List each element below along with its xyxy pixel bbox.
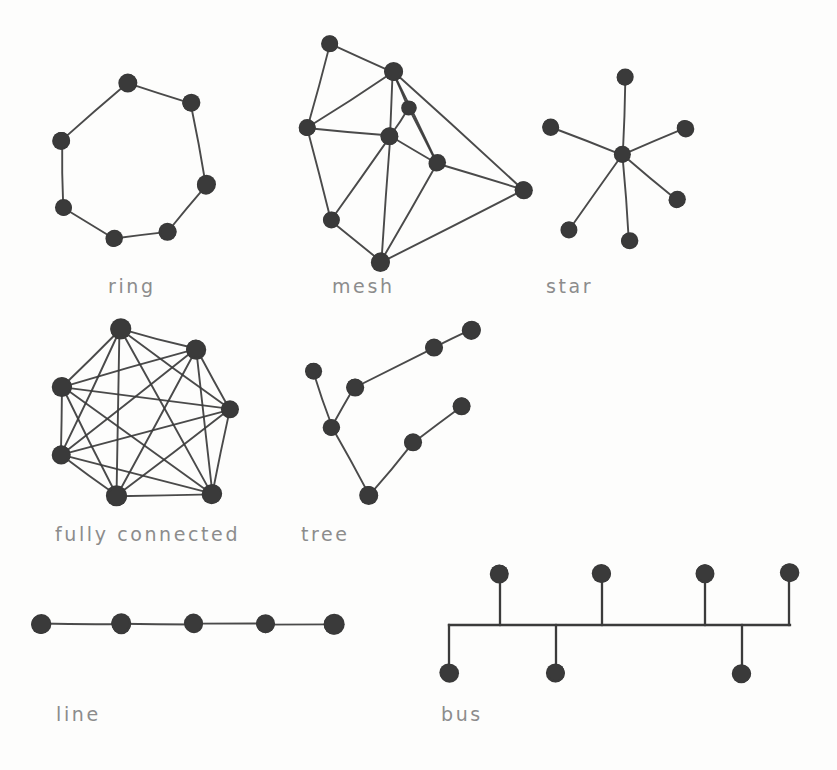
mesh-edge-4 [390,73,393,136]
bus-node-up-2[interactable] [695,564,714,583]
mesh-node-1[interactable] [384,62,403,81]
mesh-node-0[interactable] [321,35,338,52]
mesh-node-3[interactable] [299,119,316,136]
node-blob [348,379,364,395]
bus-node-down-0[interactable] [439,664,459,683]
star-node-0[interactable] [614,146,631,163]
node-blob [111,320,130,339]
tree-node-2[interactable] [346,379,364,397]
fully-connected-node-3[interactable] [202,484,223,504]
node-blob [492,565,509,582]
bus-node-down-2[interactable] [732,664,751,683]
bus-node-up-3[interactable] [780,563,799,582]
star-edge-3 [624,155,677,199]
ring-node-0[interactable] [118,74,137,93]
topology-svg [0,0,837,770]
node-blob [781,565,798,582]
mesh-node-2[interactable] [401,100,417,115]
node-blob [669,193,684,208]
ring-node-5[interactable] [55,199,72,216]
topology-diagram-canvas: ringmeshstarfully connectedtreelinebus [0,0,837,770]
node-blob [187,340,205,358]
edges-tree [313,330,471,496]
mesh-edge-10 [307,128,331,219]
nodes-ring [52,74,216,247]
ring-edge-5 [62,140,63,208]
node-blob [119,75,136,92]
node-blob [373,254,390,271]
tree-node-7[interactable] [453,397,471,415]
tree-node-4[interactable] [462,321,481,340]
star-node-6[interactable] [560,221,577,238]
fully-connected-edge-7 [196,349,212,495]
line-node-3[interactable] [256,614,275,633]
star-node-5[interactable] [621,232,638,249]
line-node-4[interactable] [324,614,345,635]
fully-connected-node-5[interactable] [52,445,71,464]
node-blob [463,322,480,339]
bus-node-up-1[interactable] [592,564,611,583]
line-node-0[interactable] [31,614,51,634]
bus-node-down-1[interactable] [546,664,565,683]
tree-node-3[interactable] [425,339,443,357]
mesh-edge-0 [330,44,393,73]
mesh-node-6[interactable] [515,181,533,199]
node-blob [323,37,338,52]
mesh-node-5[interactable] [428,154,446,172]
line-node-1[interactable] [111,613,131,634]
mesh-node-7[interactable] [323,211,340,228]
tree-edge-4 [332,427,369,495]
node-blob [54,132,70,148]
fully-connected-node-4[interactable] [106,485,127,506]
mesh-node-4[interactable] [380,127,398,145]
mesh-edge-16 [382,190,524,262]
tree-node-6[interactable] [404,433,422,451]
star-edge-4 [622,155,628,240]
node-blob [185,615,202,632]
ring-node-3[interactable] [158,223,176,241]
node-blob [53,447,70,464]
fully-connected-node-2[interactable] [221,400,239,418]
fully-connected-node-6[interactable] [52,377,72,397]
ring-node-1[interactable] [182,94,200,112]
fully-connected-edge-11 [212,409,230,494]
ring-node-4[interactable] [105,230,123,247]
node-blob [441,664,458,681]
line-node-2[interactable] [184,614,203,634]
ring-edge-6 [62,83,128,140]
fully-connected-node-1[interactable] [186,340,206,360]
node-blob [542,119,557,134]
node-blob [53,378,71,396]
line-edge-1 [121,624,193,625]
caption-line: line [56,704,101,724]
tree-node-0[interactable] [305,363,322,380]
star-node-4[interactable] [669,191,686,208]
mesh-edge-13 [381,136,390,261]
fully-connected-edge-0 [120,329,196,349]
node-blob [161,224,177,240]
line-edge-0 [41,623,120,624]
ring-node-2[interactable] [197,175,216,195]
bus-node-up-0[interactable] [490,564,509,583]
fully-connected-edge-3 [117,329,120,496]
ring-node-6[interactable] [52,132,70,150]
nodes-layer [31,35,799,683]
star-edge-1 [550,127,623,155]
star-edge-5 [569,154,622,229]
caption-bus: bus [441,704,483,724]
node-blob [677,121,692,136]
node-blob [111,614,129,632]
node-blob [382,128,398,144]
node-blob [593,566,610,583]
node-blob [453,398,469,414]
tree-node-5[interactable] [359,486,378,505]
tree-node-1[interactable] [323,419,340,436]
tree-edge-5 [369,443,413,495]
star-node-2[interactable] [542,118,559,136]
node-blob [324,615,343,634]
star-node-3[interactable] [677,120,695,137]
star-node-1[interactable] [617,68,634,85]
mesh-edge-14 [437,164,523,190]
fully-connected-node-0[interactable] [110,318,131,339]
node-blob [197,176,214,193]
